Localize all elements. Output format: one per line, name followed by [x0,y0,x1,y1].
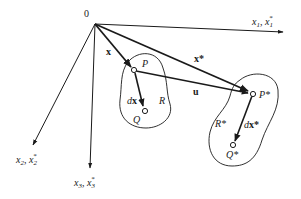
vector-x [95,24,131,67]
vector-u-label: u [193,86,199,97]
deformation-diagram: 0 x1, x1* x2, x2* x3, x3* x x* u dx dx* [0,0,301,199]
point-q-star-label: Q* [226,149,238,160]
point-q-label: Q [133,114,141,125]
point-p [131,67,136,72]
vector-dx-star-label: dx* [244,119,259,130]
vector-dx-label: dx [127,95,137,106]
vector-x-label: x [106,46,111,57]
vector-x-star [95,24,248,91]
point-p-star-label: P* [258,89,270,100]
axis-x2 [33,24,95,145]
vector-u [136,71,248,93]
point-q-star [230,142,235,147]
axis-x2-label: x2, x2* [15,152,37,167]
region-r-star-label: R* [214,118,226,129]
vector-x-star-label: x* [194,53,204,64]
point-p-star [250,91,255,96]
point-q [142,108,147,113]
axis-x1-label: x1, x1* [251,14,273,29]
origin-label: 0 [84,8,89,19]
point-p-label: P [141,58,148,69]
region-r-label: R [158,95,165,106]
axis-x3 [90,24,95,168]
axis-x3-label: x3, x3* [73,175,95,190]
